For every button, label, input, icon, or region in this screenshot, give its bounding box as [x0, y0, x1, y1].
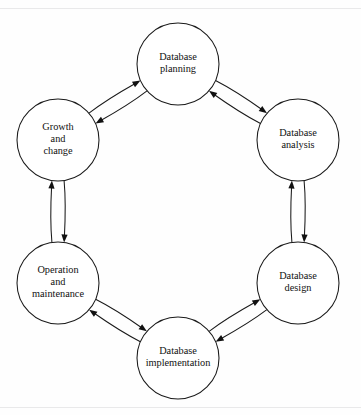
arrow-growth-and-change-to-operation-and-maintenance [61, 181, 67, 243]
arrow-database-implementation-to-database-design-line [209, 302, 256, 332]
arrow-database-planning-to-growth-and-change-head [96, 117, 105, 124]
node-label-line: Growth [42, 121, 74, 132]
arrow-database-analysis-to-database-design [301, 181, 307, 243]
node-label-line: maintenance [32, 289, 84, 300]
arrow-database-implementation-to-operation-and-maintenance [89, 310, 140, 342]
node-label-database-planning: Databaseplanning [159, 51, 197, 74]
arrow-database-analysis-to-database-design-line [304, 181, 305, 238]
arrow-database-implementation-to-database-design [209, 299, 260, 331]
arrow-database-implementation-to-operation-and-maintenance-line [93, 313, 140, 342]
node-database-planning[interactable]: Databaseplanning [137, 23, 219, 105]
arrow-operation-and-maintenance-to-growth-and-change-head [48, 181, 54, 189]
node-label-line: and [51, 133, 67, 144]
node-operation-and-maintenance[interactable]: Operationandmaintenance [17, 242, 99, 324]
link-database-analysis-to-database-design [288, 181, 307, 243]
link-database-design-to-database-implementation [209, 299, 267, 341]
arrow-operation-and-maintenance-to-growth-and-change-line [51, 186, 52, 243]
node-label-database-analysis: Databaseanalysis [279, 127, 317, 150]
node-label-line: Database [279, 270, 317, 281]
arrow-database-analysis-to-database-design-head [301, 234, 307, 242]
arrow-database-implementation-to-database-design-head [252, 299, 261, 306]
node-label-line: Database [279, 127, 317, 138]
node-label-line: analysis [281, 140, 314, 151]
arrow-database-design-to-database-implementation-line [220, 310, 267, 340]
link-operation-and-maintenance-to-growth-and-change [48, 181, 67, 243]
node-database-design[interactable]: Databasedesign [257, 242, 339, 324]
arrow-database-design-to-database-implementation-head [216, 335, 225, 342]
link-database-planning-to-database-analysis [209, 81, 267, 124]
arrow-database-planning-to-database-analysis-head [259, 106, 267, 113]
node-label-line: planning [160, 64, 196, 75]
node-database-analysis[interactable]: Databaseanalysis [257, 99, 339, 181]
arrow-growth-and-change-to-database-planning-head [132, 81, 141, 88]
database-life-cycle-diagram: DatabaseplanningDatabaseanalysisDatabase… [0, 0, 361, 415]
node-label-line: design [285, 283, 312, 294]
arrow-growth-and-change-to-operation-and-maintenance-head [61, 234, 67, 242]
arrow-operation-and-maintenance-to-database-implementation-line [96, 299, 143, 328]
arrow-database-planning-to-database-analysis [216, 81, 267, 114]
link-database-implementation-to-operation-and-maintenance [89, 299, 147, 341]
arrow-database-design-to-database-analysis [288, 181, 294, 243]
node-label-line: Operation [37, 264, 78, 275]
node-database-implementation[interactable]: Databaseimplementation [137, 317, 219, 399]
arrow-operation-and-maintenance-to-growth-and-change [48, 181, 54, 243]
arrow-database-planning-to-database-analysis-line [216, 81, 263, 111]
arrow-database-analysis-to-database-planning [209, 91, 261, 124]
arrow-growth-and-change-to-database-planning [89, 81, 140, 114]
node-label-line: Database [159, 345, 197, 356]
link-growth-and-change-to-database-planning [89, 81, 147, 124]
node-label-line: Database [159, 51, 197, 62]
arrow-database-implementation-to-operation-and-maintenance-head [89, 310, 97, 317]
arrow-database-design-to-database-implementation [216, 310, 267, 342]
node-label-line: implementation [146, 358, 211, 369]
arrow-database-analysis-to-database-planning-line [213, 94, 260, 124]
arrow-database-design-to-database-analysis-head [288, 181, 294, 189]
arrow-growth-and-change-to-database-planning-line [89, 83, 136, 113]
node-label-line: and [51, 276, 67, 287]
arrow-growth-and-change-to-operation-and-maintenance-line [64, 181, 65, 238]
arrow-database-planning-to-growth-and-change [96, 91, 148, 124]
arrow-database-analysis-to-database-planning-head [209, 91, 217, 98]
arrow-database-design-to-database-analysis-line [291, 186, 292, 243]
node-growth-and-change[interactable]: Growthandchange [17, 99, 99, 181]
arrow-database-planning-to-growth-and-change-line [100, 91, 147, 121]
node-label-line: change [43, 146, 73, 157]
diagram-page: DatabaseplanningDatabaseanalysisDatabase… [0, 0, 361, 415]
arrow-operation-and-maintenance-to-database-implementation-head [139, 324, 147, 331]
arrow-operation-and-maintenance-to-database-implementation [96, 299, 147, 331]
